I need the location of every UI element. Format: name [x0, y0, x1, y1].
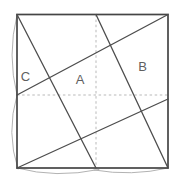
- region-label-c: C: [21, 69, 30, 84]
- diagram-page: ABC: [0, 0, 183, 186]
- region-label-a: A: [76, 72, 85, 87]
- square-dissection-diagram: ABC: [0, 0, 183, 186]
- region-label-b: B: [138, 59, 147, 74]
